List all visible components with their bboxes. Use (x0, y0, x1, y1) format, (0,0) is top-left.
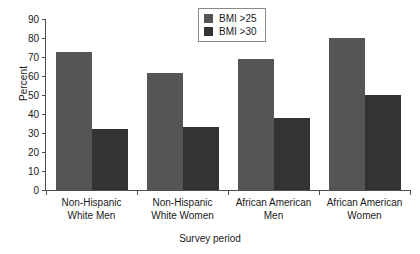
legend-item: BMI >25 (204, 12, 257, 25)
chart-legend: BMI >25 BMI >30 (198, 8, 266, 42)
legend-label-bmi-30: BMI >30 (219, 26, 257, 37)
x-axis-tick-mark (228, 190, 229, 195)
bar (274, 118, 310, 190)
x-axis-tick-mark (137, 190, 138, 195)
y-axis-tick-label: 0 (33, 185, 46, 196)
y-axis-tick-label: 60 (28, 71, 46, 82)
bar-chart: Percent 0102030405060708090 Non-Hispanic… (0, 0, 420, 254)
bar (56, 52, 92, 190)
y-axis-tick-label: 80 (28, 33, 46, 44)
y-axis-tick-label: 70 (28, 52, 46, 63)
legend-swatch-bmi-25 (204, 14, 213, 23)
legend-label-bmi-25: BMI >25 (219, 13, 257, 24)
bar (365, 95, 401, 190)
bar (238, 59, 274, 190)
plot-area: 0102030405060708090 (46, 19, 410, 190)
x-axis-tick-mark (319, 190, 320, 195)
legend-swatch-bmi-30 (204, 27, 213, 36)
bar (329, 38, 365, 190)
legend-item: BMI >30 (204, 25, 257, 38)
y-axis-tick-label: 10 (28, 166, 46, 177)
y-axis-tick-label: 90 (28, 14, 46, 25)
y-axis-tick-label: 20 (28, 147, 46, 158)
x-axis-tick-mark (46, 190, 47, 195)
x-axis-tick-mark (410, 190, 411, 195)
y-axis-tick-label: 50 (28, 90, 46, 101)
bar (147, 73, 183, 190)
bar-series-container (46, 19, 410, 190)
bar (92, 129, 128, 190)
x-axis-category-labels: Non-HispanicWhite MenNon-HispanicWhite W… (46, 197, 410, 229)
x-axis-category-label-line: Women (311, 210, 418, 223)
x-axis-category-label: African AmericanWomen (311, 197, 418, 222)
y-axis-tick-label: 40 (28, 109, 46, 120)
x-axis-title: Survey period (0, 233, 420, 244)
x-axis-category-label-line: African American (311, 197, 418, 210)
y-axis-tick-label: 30 (28, 128, 46, 139)
bar (183, 127, 219, 190)
y-axis-title: Percent (18, 29, 29, 139)
